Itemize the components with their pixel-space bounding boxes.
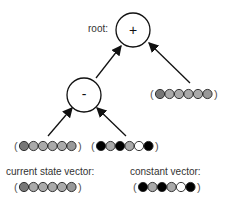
root-label: root: <box>88 23 108 35</box>
vector-cell <box>57 182 66 191</box>
svg-text:(: ( <box>150 88 154 100</box>
vector-cell <box>115 141 124 150</box>
vector-cell <box>167 182 176 191</box>
vector-cell <box>38 141 47 150</box>
current-state-vector: () <box>14 181 82 193</box>
svg-text:): ) <box>155 140 159 152</box>
vector-cell <box>29 182 38 191</box>
vector-cell <box>48 182 57 191</box>
svg-text:): ) <box>214 88 218 100</box>
vector-cell <box>157 182 166 191</box>
edge-left-to-minus <box>48 108 72 136</box>
vector-cell <box>29 141 38 150</box>
vector-cell <box>134 141 143 150</box>
vector-cell <box>184 89 193 98</box>
vector-cell <box>155 89 164 98</box>
vector-cell <box>193 89 202 98</box>
vector-cell <box>19 141 28 150</box>
vector-cell <box>203 89 212 98</box>
vector-cell <box>138 182 147 191</box>
svg-text:): ) <box>197 181 201 193</box>
svg-text:(: ( <box>133 181 137 193</box>
svg-text:(: ( <box>14 181 18 193</box>
constant-label: constant vector: <box>130 166 201 178</box>
vector-cell <box>38 182 47 191</box>
vector-cell <box>165 89 174 98</box>
right-leaf-vector: () <box>150 88 218 100</box>
svg-text:): ) <box>78 181 82 193</box>
vector-cell <box>144 141 153 150</box>
left-leaf-vector: () <box>14 140 82 152</box>
vector-cell <box>174 89 183 98</box>
current-state-label: current state vector: <box>6 166 94 178</box>
vector-cell <box>125 141 134 150</box>
svg-text:(: ( <box>91 140 95 152</box>
svg-text:): ) <box>78 140 82 152</box>
vector-cell <box>57 141 66 150</box>
edge-right-to-root <box>149 43 190 83</box>
vector-cell <box>148 182 157 191</box>
middle-leaf-vector: () <box>91 140 159 152</box>
minus-operator: - <box>74 87 94 101</box>
vector-cell <box>67 182 76 191</box>
plus-operator: + <box>123 23 143 37</box>
vector-cell <box>67 141 76 150</box>
svg-text:(: ( <box>14 140 18 152</box>
vector-cell <box>19 182 28 191</box>
edge-middle-to-minus <box>97 108 126 136</box>
vector-cell <box>48 141 57 150</box>
vector-cell <box>106 141 115 150</box>
vector-cell <box>186 182 195 191</box>
vector-cell <box>96 141 105 150</box>
edge-minus-to-root <box>96 46 121 78</box>
vector-cell <box>176 182 185 191</box>
constant-vector: () <box>133 181 201 193</box>
